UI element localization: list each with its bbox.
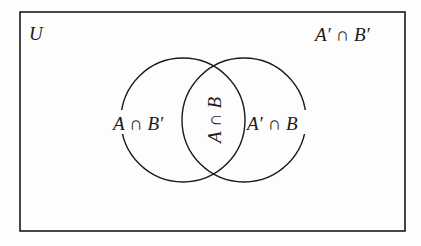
universe-label: U xyxy=(29,23,44,44)
region-a-only-label: A ∩ B′ xyxy=(111,113,164,134)
region-outside-label: A′ ∩ B′ xyxy=(313,24,371,45)
venn-diagram: U A′ ∩ B′ A ∩ B′ A′ ∩ B A ∩ B xyxy=(0,0,421,246)
region-intersection-label: A ∩ B xyxy=(204,97,225,145)
region-b-only-label: A′ ∩ B xyxy=(245,113,298,134)
venn-svg: U A′ ∩ B′ A ∩ B′ A′ ∩ B A ∩ B xyxy=(0,0,421,246)
